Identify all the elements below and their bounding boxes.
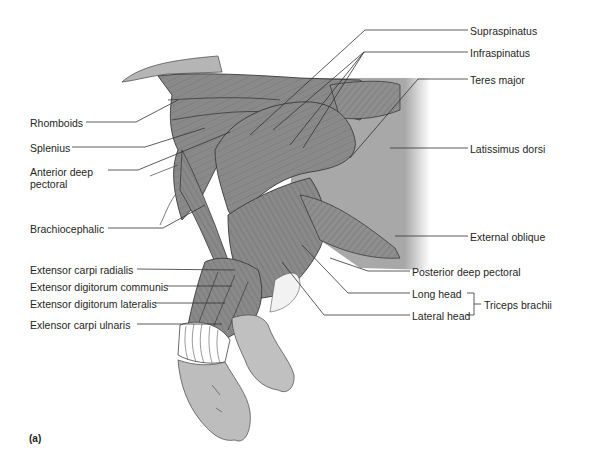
label-latissimus-dorsi: Latissimus dorsi <box>470 143 545 155</box>
panel-label: (a) <box>29 433 41 444</box>
label-extensor-carpi-radialis: Extensor carpi radialis <box>30 264 133 276</box>
label-external-oblique: External oblique <box>470 231 545 243</box>
teres-major-muscle <box>330 81 400 118</box>
label-brachiocephalic: Brachiocephalic <box>30 223 104 235</box>
label-long-head: Long head <box>412 288 462 300</box>
left-paw <box>178 360 250 441</box>
label-anterior-deep-pectoral: Anterior deep pectoral <box>30 166 110 190</box>
label-rhomboids: Rhomboids <box>30 117 83 129</box>
label-infraspinatus: Infraspinatus <box>470 47 530 59</box>
label-lateral-head: Lateral head <box>412 310 470 322</box>
label-supraspinatus: Supraspinatus <box>470 25 537 37</box>
label-extensor-digitorum-lateralis: Extensor digitorum lateralis <box>30 298 157 310</box>
label-posterior-deep-pectoral: Posterior deep pectoral <box>412 266 521 278</box>
label-splenius: Splenius <box>30 142 70 154</box>
label-triceps-brachii: Triceps brachii <box>484 299 552 311</box>
anatomy-figure: Rhomboids Splenius Anterior deep pectora… <box>0 0 592 459</box>
label-extensor-digitorum-communis: Extensor digitorum communis <box>30 281 168 293</box>
right-paw <box>232 315 294 392</box>
label-teres-major: Teres major <box>470 74 525 86</box>
label-extensor-carpi-ulnaris: Exlensor carpi ulnaris <box>30 319 130 331</box>
